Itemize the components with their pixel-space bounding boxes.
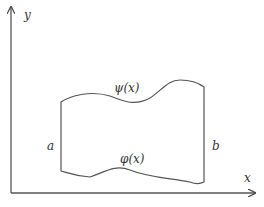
upper-curve-label: ψ(x) xyxy=(114,82,140,94)
left-bound-label: a xyxy=(47,140,54,152)
y-axis-label: y xyxy=(24,9,31,21)
region-boundary xyxy=(61,80,204,184)
x-axis-label: x xyxy=(244,172,251,184)
diagram-canvas xyxy=(0,0,264,207)
right-bound-label: b xyxy=(212,140,220,152)
lower-curve-label: φ(x) xyxy=(120,153,145,165)
